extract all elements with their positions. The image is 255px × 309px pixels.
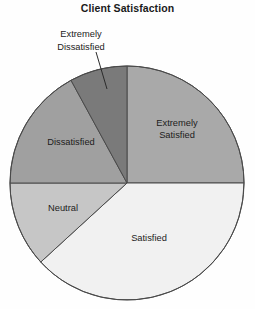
- pie-chart-canvas: [0, 0, 255, 309]
- pie-slice-extremely-satisfied[interactable]: [127, 66, 244, 183]
- pie-slices-group: [10, 66, 244, 300]
- pie-chart-figure: Client Satisfaction Extremely Satisfied …: [0, 0, 255, 309]
